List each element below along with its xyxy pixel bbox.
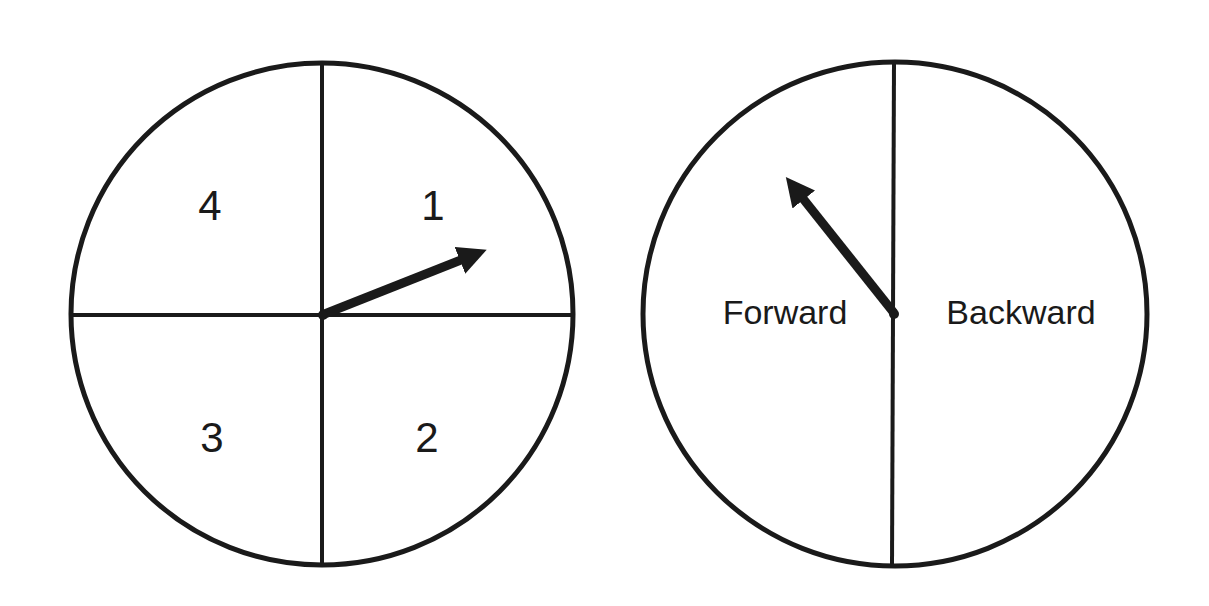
spinners-diagram: 1 2 3 4 Forward Backward xyxy=(0,0,1209,606)
section-label-backward: Backward xyxy=(946,293,1095,331)
section-label-4: 4 xyxy=(198,182,221,229)
pivot-dot xyxy=(318,310,328,320)
section-label-1: 1 xyxy=(421,182,444,229)
direction-spinner: Forward Backward xyxy=(643,62,1147,566)
number-spinner: 1 2 3 4 xyxy=(71,63,573,565)
pivot-dot xyxy=(889,309,899,319)
section-label-3: 3 xyxy=(200,414,223,461)
section-label-forward: Forward xyxy=(723,293,848,331)
section-label-2: 2 xyxy=(415,414,438,461)
